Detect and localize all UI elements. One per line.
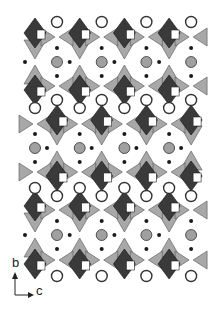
square-polyhedron [126,87,134,96]
small-atom-dot [134,146,138,150]
open-atom [141,271,152,282]
square-polyhedron [82,30,90,39]
small-atom-dot [78,160,82,164]
open-atom [52,17,63,28]
square-polyhedron [126,261,134,270]
open-atom [96,95,107,106]
small-atom-dot [55,74,59,78]
open-atom [96,17,107,28]
open-atom [52,271,63,282]
small-atom-dot [68,233,72,237]
square-polyhedron [104,173,112,182]
open-atom [119,103,130,114]
axis-label-c: c [36,284,43,297]
small-atom-dot [33,160,37,164]
open-atom [164,103,175,114]
small-atom-dot [144,247,148,251]
small-atom-dot [55,219,59,223]
square-polyhedron [37,87,45,96]
gray-atom [186,230,197,241]
gray-atom [96,57,107,68]
square-polyhedron [82,261,90,270]
open-atom [186,191,197,202]
square-polyhedron [148,173,156,182]
gray-atom [186,57,197,68]
open-atom [52,95,63,106]
small-atom-dot [100,219,104,223]
small-atom-dot [78,132,82,136]
square-polyhedron [126,30,134,39]
small-atom-dot [55,46,59,50]
open-atom [30,183,41,194]
small-atom-dot [112,233,116,237]
square-polyhedron [104,117,112,126]
open-atom [141,95,152,106]
small-atom-dot [144,219,148,223]
light-tetrahedron [19,163,33,181]
open-atom [186,95,197,106]
small-atom-dot [122,160,126,164]
small-atom-dot [23,233,27,237]
gray-atom [96,230,107,241]
gray-atom [52,230,63,241]
small-atom-dot [122,132,126,136]
open-atom [30,103,41,114]
square-polyhedron [37,261,45,270]
open-atom [96,271,107,282]
open-atom [96,191,107,202]
gray-atom [141,230,152,241]
light-tetrahedron [193,201,207,219]
square-polyhedron [148,117,156,126]
square-polyhedron [82,203,90,212]
small-atom-dot [68,60,72,64]
small-atom-dot [45,146,49,150]
small-atom-dot [157,60,161,64]
small-atom-dot [167,132,171,136]
gray-atom [141,57,152,68]
small-atom-dot [23,60,27,64]
light-tetrahedron [193,77,207,95]
square-polyhedron [37,30,45,39]
small-atom-dot [189,247,193,251]
gray-atom [74,143,85,154]
arrowhead-up-icon [12,272,18,279]
gray-atom [164,143,175,154]
gray-atom [119,143,130,154]
light-tetrahedron [193,251,207,269]
small-atom-dot [179,146,183,150]
square-polyhedron [171,87,179,96]
axis-label-b: b [12,256,19,269]
square-polyhedron [59,117,67,126]
open-atom [52,191,63,202]
square-polyhedron [171,203,179,212]
open-atom [186,17,197,28]
square-polyhedron [193,173,201,182]
small-atom-dot [189,74,193,78]
square-polyhedron [59,173,67,182]
small-atom-dot [189,219,193,223]
gray-atom [30,143,41,154]
square-polyhedron [171,261,179,270]
small-atom-dot [144,46,148,50]
open-atom [186,271,197,282]
square-polyhedron [82,87,90,96]
open-atom [141,17,152,28]
small-atom-dot [100,74,104,78]
open-atom [74,183,85,194]
small-atom-dot [100,46,104,50]
square-polyhedron [171,30,179,39]
open-atom [164,183,175,194]
small-atom-dot [157,233,161,237]
open-atom [74,103,85,114]
small-atom-dot [90,146,94,150]
small-atom-dot [33,132,37,136]
square-polyhedron [193,117,201,126]
open-atom [119,183,130,194]
arrowhead-right-icon [28,292,34,298]
light-tetrahedron [193,28,207,46]
gray-atom [52,57,63,68]
small-atom-dot [55,247,59,251]
small-atom-dot [112,60,116,64]
small-atom-dot [144,74,148,78]
open-atom [141,191,152,202]
